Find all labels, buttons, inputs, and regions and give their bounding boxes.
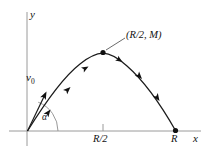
apex-leader-line (106, 38, 125, 50)
direction-arrow-5 (135, 71, 145, 81)
apex-point-label: (R/2, M) (126, 30, 162, 41)
direction-arrow-3 (81, 64, 90, 72)
angle-label: α (42, 113, 47, 123)
half-range-tick-label: R/2 (93, 134, 108, 145)
initial-velocity-subscript: 0 (31, 77, 35, 86)
apex-point-marker (100, 50, 105, 55)
trajectory-curve (28, 53, 176, 131)
direction-arrow-2 (63, 85, 73, 95)
range-tick-label: R (171, 134, 177, 145)
initial-velocity-label: v0 (26, 72, 35, 86)
y-axis-label: y (30, 9, 35, 20)
initial-velocity-arrowhead (40, 90, 49, 100)
x-axis-label: x (193, 133, 198, 144)
projectile-motion-figure: y x v0 α (R/2, M) R/2 R (0, 0, 210, 162)
